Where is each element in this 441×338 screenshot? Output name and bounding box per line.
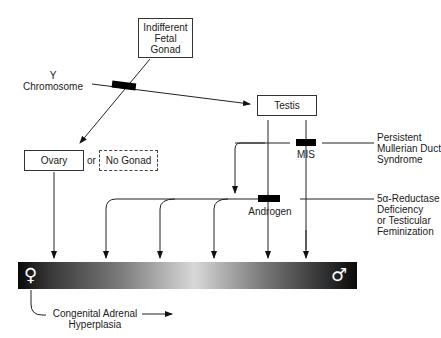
male-symbol-icon: ♂ bbox=[331, 266, 347, 284]
gonad-line-3: Gonad bbox=[150, 44, 180, 55]
mis-block bbox=[296, 139, 316, 146]
ovary-box: Ovary bbox=[24, 150, 84, 171]
gonad-line-1: Indifferent bbox=[143, 22, 187, 33]
cah-label: Congenital Adrenal Hyperplasia bbox=[48, 308, 142, 330]
female-symbol-icon: ♀ bbox=[24, 266, 37, 284]
y-chromosome-block bbox=[112, 81, 137, 91]
reductase-label: 5α-Reductase Deficiency or Testicular Fe… bbox=[377, 193, 439, 237]
testis-box: Testis bbox=[257, 95, 317, 116]
androgen-block bbox=[258, 195, 280, 202]
indifferent-fetal-gonad-box: Indifferent Fetal Gonad bbox=[138, 18, 193, 58]
no-gonad-box: No Gonad bbox=[99, 150, 158, 171]
or-label: or bbox=[87, 155, 96, 166]
pmds-label: Persistent Mullerian Duct Syndrome bbox=[377, 132, 441, 165]
mis-label: MIS bbox=[294, 149, 318, 160]
androgen-label: Androgen bbox=[244, 206, 296, 217]
y-chromosome-label: Y Chromosome bbox=[22, 70, 84, 92]
gonad-line-2: Fetal bbox=[154, 33, 176, 44]
sex-spectrum-bar: ♀ ♂ bbox=[18, 262, 357, 289]
